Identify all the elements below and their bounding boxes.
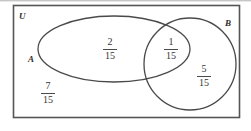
set-b-label: B — [225, 19, 231, 28]
venn-diagram-canvas — [0, 0, 251, 131]
region-value-a-only: 2 15 — [103, 37, 117, 61]
region-a-only-denominator: 15 — [103, 51, 117, 62]
region-outside-denominator: 15 — [41, 95, 55, 106]
region-outside-numerator: 7 — [41, 81, 55, 92]
region-value-b-only: 5 15 — [197, 64, 211, 88]
region-a-only-numerator: 2 — [103, 37, 117, 48]
region-b-only-denominator: 15 — [197, 78, 211, 89]
region-value-a-intersect-b: 1 15 — [164, 37, 178, 61]
region-intersection-numerator: 1 — [164, 37, 178, 48]
universal-set-label: U — [19, 12, 26, 21]
region-value-outside-both: 7 15 — [41, 81, 55, 105]
set-a-label: A — [28, 55, 34, 64]
region-b-only-numerator: 5 — [197, 64, 211, 75]
venn-diagram-figure: U A B 2 15 1 15 5 15 7 15 — [0, 0, 251, 131]
region-intersection-denominator: 15 — [164, 51, 178, 62]
